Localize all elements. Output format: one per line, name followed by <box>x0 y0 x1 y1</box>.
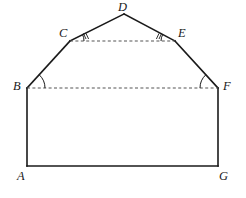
angle-arc-e <box>161 35 163 41</box>
geometry-figure: A B C D E F G <box>0 0 246 198</box>
vertex-label-F: F <box>223 80 231 93</box>
polygon-outline <box>27 14 218 166</box>
dashed-segments <box>27 41 218 88</box>
edge-B-C <box>27 41 70 88</box>
vertex-label-E: E <box>178 27 186 40</box>
angle-mark-F <box>200 75 206 88</box>
edge-C-D <box>70 14 124 41</box>
angle-mark-C <box>83 33 89 41</box>
angle-mark-B <box>39 75 45 88</box>
vertex-label-B: B <box>13 80 21 93</box>
angle-tick-c-2 <box>86 33 89 39</box>
edge-D-E <box>124 14 175 41</box>
angle-arc-c <box>83 35 84 41</box>
angle-arc-b <box>39 75 45 88</box>
angle-arc-f <box>200 75 206 88</box>
edge-E-F <box>175 41 218 88</box>
vertex-label-G: G <box>219 170 228 183</box>
angle-tick-e-2 <box>156 33 159 39</box>
vertex-label-C: C <box>59 27 67 40</box>
geometry-canvas <box>0 0 246 198</box>
vertex-label-D: D <box>118 1 127 14</box>
vertex-label-A: A <box>17 170 25 183</box>
